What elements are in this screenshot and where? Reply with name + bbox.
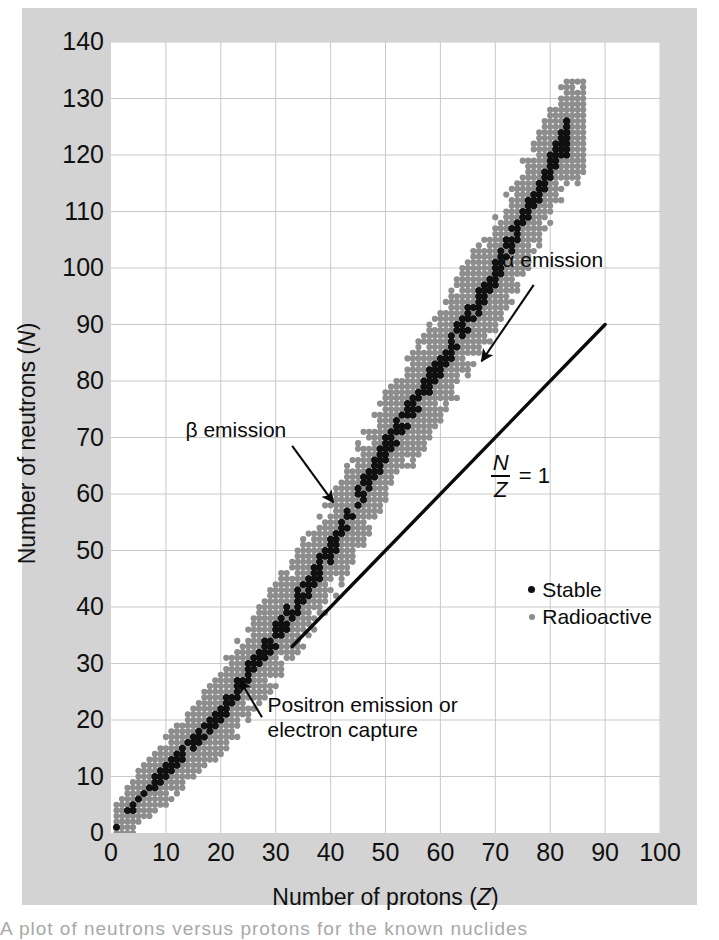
nz-numerator: N bbox=[490, 451, 512, 475]
radioactive-dot-icon bbox=[529, 614, 535, 620]
positron-emission-line2: electron capture bbox=[267, 718, 457, 743]
y-tick-label: 30 bbox=[48, 651, 104, 676]
legend-item-stable: Stable bbox=[528, 576, 652, 603]
y-tick-label: 20 bbox=[48, 707, 104, 732]
positron-emission-line1: Positron emission or bbox=[267, 693, 457, 718]
y-tick-label: 130 bbox=[48, 86, 104, 111]
y-tick-label: 50 bbox=[48, 538, 104, 563]
legend-label-radioactive: Radioactive bbox=[542, 605, 652, 629]
x-tick-label: 100 bbox=[625, 840, 695, 865]
plot-area: α emission β emission Positron emission … bbox=[111, 42, 660, 833]
y-tick-label: 10 bbox=[48, 764, 104, 789]
beta-emission-label: β emission bbox=[186, 418, 287, 443]
positron-emission-label: Positron emission or electron capture bbox=[267, 693, 457, 743]
y-tick-label: 140 bbox=[48, 29, 104, 54]
y-tick-label: 60 bbox=[48, 481, 104, 506]
y-tick-label: 40 bbox=[48, 594, 104, 619]
nz-equals-one: = 1 bbox=[519, 463, 550, 489]
nz-ratio-label: N Z = 1 bbox=[490, 451, 550, 501]
y-axis-title: Number of neutrons (N) bbox=[14, 174, 41, 714]
y-tick-label: 80 bbox=[48, 368, 104, 393]
nuclide-chart-figure: 0102030405060708090100110120130140 α emi… bbox=[0, 0, 719, 940]
nz-fraction: N Z bbox=[490, 451, 512, 501]
legend-item-radioactive: Radioactive bbox=[528, 603, 652, 630]
chart-legend: Stable Radioactive bbox=[528, 576, 652, 630]
y-tick-label: 90 bbox=[48, 312, 104, 337]
caption-fragment: A plot of neutrons versus protons for th… bbox=[0, 918, 719, 940]
x-axis-ticks: 0102030405060708090100 bbox=[111, 840, 660, 880]
stable-dot-icon bbox=[528, 586, 535, 593]
y-tick-label: 120 bbox=[48, 142, 104, 167]
x-axis-title: Number of protons (Z) bbox=[111, 884, 660, 911]
y-tick-label: 100 bbox=[48, 255, 104, 280]
y-tick-label: 70 bbox=[48, 425, 104, 450]
nz-denominator: Z bbox=[491, 475, 510, 501]
alpha-emission-label: α emission bbox=[502, 248, 603, 273]
y-axis-ticks: 0102030405060708090100110120130140 bbox=[40, 42, 104, 833]
y-tick-label: 110 bbox=[48, 199, 104, 224]
legend-label-stable: Stable bbox=[542, 578, 602, 602]
